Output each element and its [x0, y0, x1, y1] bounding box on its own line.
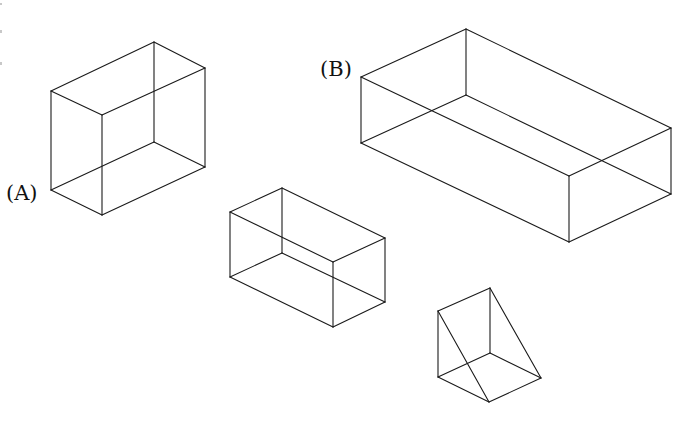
figure-canvas: (A) (B) — [0, 0, 695, 421]
label-a: (A) — [6, 181, 38, 205]
wedge-d — [438, 288, 541, 402]
edge — [154, 42, 205, 68]
edge — [490, 288, 541, 378]
edge — [361, 29, 466, 77]
edge — [282, 188, 385, 238]
edge — [333, 302, 385, 327]
edge — [361, 143, 569, 242]
edge — [102, 167, 205, 215]
edge — [438, 377, 489, 402]
edge — [230, 188, 282, 212]
edge — [361, 77, 569, 176]
scan-specks — [0, 3, 2, 65]
edge — [466, 29, 671, 128]
edge — [489, 378, 541, 402]
edge — [154, 142, 205, 167]
shapes-layer — [51, 29, 671, 402]
edge — [333, 238, 385, 262]
edge — [230, 253, 282, 277]
label-b: (B) — [320, 57, 352, 81]
edge — [230, 277, 333, 327]
box-a — [51, 42, 205, 215]
edge — [51, 190, 102, 215]
edge — [438, 288, 490, 311]
box-b — [361, 29, 671, 242]
edge — [569, 194, 671, 242]
box-c — [230, 188, 385, 327]
labels-layer: (A) (B) — [6, 57, 352, 205]
edge — [51, 91, 102, 115]
edge — [51, 42, 154, 91]
